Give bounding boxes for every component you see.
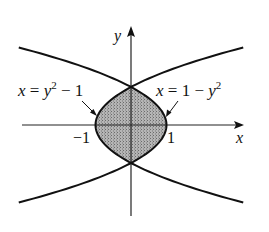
y-axis-label: y (112, 27, 122, 45)
tick-label-one: 1 (167, 129, 175, 146)
tick-label-neg-one: −1 (73, 129, 90, 146)
x-axis-label: x (235, 129, 243, 146)
pointer-arrow-right (169, 101, 178, 113)
label-left-curve: x = y2 − 1 (17, 79, 83, 100)
parabola-region-diagram: y x −1 1 x = y2 − 1 x = 1 − y2 (0, 0, 269, 232)
label-right-curve: x = 1 − y2 (155, 79, 221, 100)
